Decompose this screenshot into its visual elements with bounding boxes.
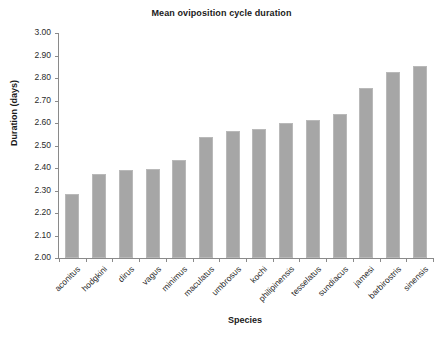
x-axis-label: Species bbox=[60, 315, 430, 325]
bar bbox=[386, 72, 400, 258]
y-tick-label: 2.30 bbox=[34, 185, 51, 195]
y-tick-label: 2.80 bbox=[34, 72, 51, 82]
y-tick-label: 2.70 bbox=[34, 95, 51, 105]
y-tick-label: 2.10 bbox=[34, 230, 51, 240]
chart-title: Mean oviposition cycle duration bbox=[0, 8, 443, 18]
y-tick-mark bbox=[55, 56, 59, 57]
y-tick-mark bbox=[55, 123, 59, 124]
chart-figure: Mean oviposition cycle duration Duration… bbox=[0, 0, 443, 340]
y-tick-mark bbox=[55, 168, 59, 169]
y-tick-mark bbox=[55, 146, 59, 147]
y-axis-label: Duration (days) bbox=[9, 58, 19, 168]
bar bbox=[359, 88, 373, 258]
bar bbox=[146, 169, 160, 258]
y-tick-label: 2.00 bbox=[34, 252, 51, 262]
y-tick-label: 2.50 bbox=[34, 140, 51, 150]
bar bbox=[199, 137, 213, 259]
bar bbox=[252, 129, 266, 258]
y-tick-label: 2.20 bbox=[34, 207, 51, 217]
y-tick-mark bbox=[55, 236, 59, 237]
bar bbox=[65, 194, 79, 258]
bar bbox=[333, 114, 347, 258]
y-tick-label: 3.00 bbox=[34, 27, 51, 37]
bar bbox=[226, 131, 240, 258]
y-tick-mark bbox=[55, 191, 59, 192]
y-tick-mark bbox=[55, 101, 59, 102]
y-tick-mark bbox=[55, 213, 59, 214]
bar bbox=[306, 120, 320, 258]
bar bbox=[92, 174, 106, 258]
x-tick-mark bbox=[433, 258, 434, 262]
bar bbox=[279, 123, 293, 258]
bar bbox=[172, 160, 186, 258]
bar bbox=[119, 170, 133, 258]
y-tick-mark bbox=[55, 78, 59, 79]
y-tick-label: 2.60 bbox=[34, 117, 51, 127]
y-tick-label: 2.40 bbox=[34, 162, 51, 172]
y-tick-mark bbox=[55, 33, 59, 34]
bar bbox=[413, 66, 427, 258]
plot-area: 3.002.902.802.702.602.502.402.302.202.10… bbox=[58, 33, 433, 259]
x-axis-tick-labels: aconitushodgkinidirusvagusminimusmaculat… bbox=[58, 262, 432, 317]
y-tick-label: 2.90 bbox=[34, 50, 51, 60]
